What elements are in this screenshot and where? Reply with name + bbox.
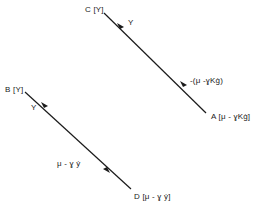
arrow-icon	[103, 167, 110, 173]
edge-label-ca-lower: -(μ -ɣKġ)	[190, 77, 223, 85]
edge-c-a	[104, 13, 206, 113]
edge-label-ca-upper: Y	[128, 19, 133, 27]
arrow-icon	[180, 81, 187, 87]
point-b-label: B [Y]	[5, 86, 23, 94]
point-a-label: A [μ - ɣKġ]	[211, 113, 250, 121]
edge-label-bd-upper: Y	[31, 104, 36, 112]
point-d-label: D [μ - ɣ ẏ]	[134, 193, 171, 201]
edge-b-d	[25, 92, 131, 189]
diagram-canvas	[0, 0, 258, 212]
point-c-label: C [Y]	[85, 6, 104, 14]
edge-label-bd-lower: μ - ɣ ẏ	[57, 160, 80, 168]
